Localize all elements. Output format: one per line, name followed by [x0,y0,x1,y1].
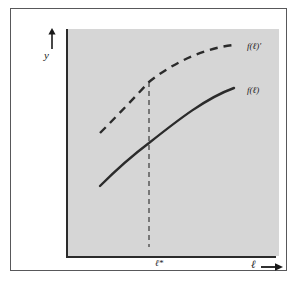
curve-production-solid [100,88,234,186]
curves-layer [0,0,300,289]
figure-container: y ℓ ℓ* f(ℓ)′ f(ℓ) [0,0,300,289]
curve-shifted-dashed [100,45,234,133]
